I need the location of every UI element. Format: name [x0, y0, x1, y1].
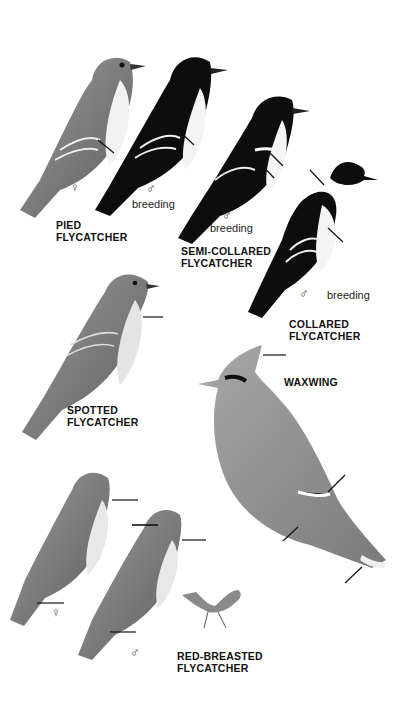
- spotted-flycatcher-label: SPOTTEDFLYCATCHER: [67, 404, 138, 428]
- species-name-line2: FLYCATCHER: [181, 257, 252, 269]
- female-symbol: ♀: [51, 605, 61, 620]
- breeding-note: breeding: [132, 198, 175, 210]
- male-symbol: ♂: [222, 208, 232, 223]
- field-guide-plate: PIEDFLYCATCHER ♀ ♂ breeding SEMI-COLLARE…: [0, 0, 415, 701]
- female-symbol: ♀: [70, 180, 80, 195]
- male-symbol: ♂: [299, 286, 309, 301]
- species-name-line1: SEMI-COLLARED: [181, 245, 271, 257]
- male-symbol: ♂: [130, 645, 140, 660]
- waxwing-label: WAXWING: [284, 376, 338, 388]
- male-symbol: ♂: [146, 181, 156, 196]
- species-name-line1: RED-BREASTED: [177, 650, 263, 662]
- semi-collared-flycatcher-label: SEMI-COLLAREDFLYCATCHER: [181, 245, 271, 269]
- red-breasted-flycatcher-label: RED-BREASTEDFLYCATCHER: [177, 650, 263, 674]
- red-breasted-flycatcher-small-illustration: [182, 590, 241, 628]
- species-name-line1: COLLARED: [289, 318, 349, 330]
- species-name-line2: FLYCATCHER: [67, 416, 138, 428]
- pied-flycatcher-label: PIEDFLYCATCHER: [56, 219, 127, 243]
- bird-illustrations: [0, 0, 415, 701]
- species-name-line2: FLYCATCHER: [56, 231, 127, 243]
- breeding-note: breeding: [327, 289, 370, 301]
- collared-flycatcher-label: COLLAREDFLYCATCHER: [289, 318, 360, 342]
- species-name-line2: FLYCATCHER: [177, 662, 248, 674]
- species-name-line1: WAXWING: [284, 376, 338, 388]
- species-name-line1: SPOTTED: [67, 404, 118, 416]
- species-name-line2: FLYCATCHER: [289, 330, 360, 342]
- species-name-line1: PIED: [56, 219, 81, 231]
- breeding-note: breeding: [210, 222, 253, 234]
